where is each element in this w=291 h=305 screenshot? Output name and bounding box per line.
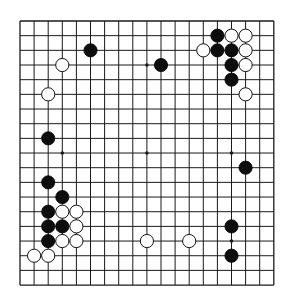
- black-stone[interactable]: [84, 44, 97, 57]
- star-point: [145, 151, 149, 155]
- white-stone[interactable]: [70, 220, 83, 233]
- white-stone[interactable]: [56, 205, 69, 218]
- white-stone[interactable]: [140, 234, 153, 247]
- white-stone[interactable]: [42, 249, 55, 262]
- go-board[interactable]: [0, 0, 291, 305]
- white-stone[interactable]: [56, 234, 69, 247]
- black-stone[interactable]: [154, 58, 167, 71]
- black-stone[interactable]: [225, 58, 238, 71]
- black-stone[interactable]: [225, 249, 238, 262]
- black-stone[interactable]: [42, 176, 55, 189]
- white-stone[interactable]: [239, 44, 252, 57]
- black-stone[interactable]: [239, 161, 252, 174]
- white-stone[interactable]: [197, 44, 210, 57]
- white-stone[interactable]: [225, 29, 238, 42]
- black-stone[interactable]: [225, 44, 238, 57]
- white-stone[interactable]: [70, 234, 83, 247]
- star-point: [230, 151, 234, 155]
- white-stone[interactable]: [42, 88, 55, 101]
- black-stone[interactable]: [56, 190, 69, 203]
- black-stone[interactable]: [42, 234, 55, 247]
- white-stone[interactable]: [239, 29, 252, 42]
- black-stone[interactable]: [42, 220, 55, 233]
- white-stone[interactable]: [239, 88, 252, 101]
- star-point: [230, 239, 234, 243]
- white-stone[interactable]: [27, 249, 40, 262]
- white-stone[interactable]: [56, 58, 69, 71]
- black-stone[interactable]: [225, 220, 238, 233]
- black-stone[interactable]: [42, 205, 55, 218]
- stones-layer: [27, 29, 252, 262]
- black-stone[interactable]: [211, 29, 224, 42]
- star-point: [61, 151, 65, 155]
- black-stone[interactable]: [225, 73, 238, 86]
- black-stone[interactable]: [211, 44, 224, 57]
- black-stone[interactable]: [42, 132, 55, 145]
- white-stone[interactable]: [183, 234, 196, 247]
- black-stone[interactable]: [56, 220, 69, 233]
- star-point: [145, 63, 149, 67]
- white-stone[interactable]: [70, 205, 83, 218]
- white-stone[interactable]: [239, 58, 252, 71]
